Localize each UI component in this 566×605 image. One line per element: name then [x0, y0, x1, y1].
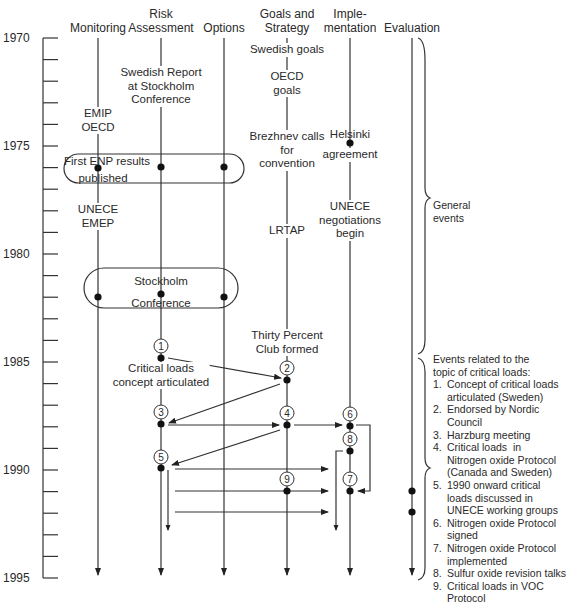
- legend-num: 6.: [433, 517, 447, 542]
- legend-text: Critical loads in Nitrogen oxide Protoco…: [447, 441, 556, 479]
- event-swedish-report: Swedish Report at Stockholm Conference: [120, 66, 201, 107]
- legend-item-7: 7.Nitrogen oxide Protocol implemented: [433, 542, 566, 567]
- year-1975: 1975: [3, 139, 30, 153]
- year-1995: 1995: [3, 571, 30, 585]
- header-goals-strategy: Goals and Strategy: [260, 7, 315, 35]
- event-lrtap: LRTAP: [269, 224, 305, 238]
- general-events-brace: [418, 38, 430, 354]
- legend-text: Harzburg meeting: [447, 429, 530, 442]
- legend-item-6: 6.Nitrogen oxide Protocol signed: [433, 517, 566, 542]
- legend-num: 1.: [433, 378, 447, 403]
- legend-text: 1990 onward critical loads discussed in …: [447, 479, 558, 517]
- event-first-enp-published: published: [78, 172, 127, 186]
- legend-item-2: 2.Endorsed by Nordic Council: [433, 403, 566, 428]
- arrow-8-down: [336, 451, 343, 530]
- header-options: Options: [203, 21, 244, 35]
- arrow-6-to-7: [356, 425, 370, 491]
- marker-3: 3: [154, 405, 169, 420]
- event-brezhnev: Brezhnev calls for convention: [250, 130, 325, 171]
- event-oecd-goals: OECD goals: [270, 70, 303, 97]
- event-dots: [94, 139, 415, 515]
- legend-item-9: 9.Critical loads in VOC Protocol: [433, 580, 566, 605]
- event-critical-loads: Critical loads concept articulated: [113, 362, 210, 389]
- year-ticks: [43, 38, 58, 578]
- legend-item-3: 3.Harzburg meeting: [433, 429, 566, 442]
- marker-8: 8: [343, 432, 358, 447]
- event-unece-negotiations: UNECE negotiations begin: [319, 200, 381, 241]
- marker-6: 6: [343, 407, 358, 422]
- legend-num: 5.: [433, 479, 447, 517]
- event-stockholm-conference-2: Conference: [131, 297, 190, 311]
- legend-num: 8.: [433, 567, 447, 580]
- event-swedish-goals: Swedish goals: [250, 43, 324, 57]
- year-1970: 1970: [3, 31, 30, 45]
- legend-item-4: 4.Critical loads in Nitrogen oxide Proto…: [433, 441, 566, 479]
- legend-num: 3.: [433, 429, 447, 442]
- header-evaluation: Evaluation: [384, 21, 440, 35]
- legend-item-1: 1.Concept of critical loads articulated …: [433, 378, 566, 403]
- legend-title: Events related to the topic of critical …: [433, 353, 566, 378]
- event-helsinki-agreement: agreement: [323, 148, 378, 162]
- legend-item-8: 8.Sulfur oxide revision talks: [433, 567, 566, 580]
- year-1980: 1980: [3, 247, 30, 261]
- marker-7: 7: [343, 472, 358, 487]
- event-unece-emep: UNECE EMEP: [78, 203, 118, 230]
- critical-loads-brace: [418, 358, 430, 580]
- legend-text: Sulfur oxide revision talks: [447, 567, 566, 580]
- legend-text: Concept of critical loads articulated (S…: [447, 378, 558, 403]
- legend-num: 4.: [433, 441, 447, 479]
- legend-item-5: 5.1990 onward critical loads discussed i…: [433, 479, 566, 517]
- legend-text: Critical loads in VOC Protocol: [447, 580, 544, 605]
- year-1985: 1985: [3, 355, 30, 369]
- event-stockholm-conference: Stockholm: [134, 275, 188, 289]
- legend-num: 7.: [433, 542, 447, 567]
- marker-1: 1: [154, 339, 169, 354]
- legend-text: Endorsed by Nordic Council: [447, 403, 539, 428]
- event-first-enp: First ENP results: [64, 155, 150, 169]
- marker-9: 9: [280, 472, 295, 487]
- event-thirty-percent-club: Thirty Percent Club formed: [251, 329, 323, 356]
- arrow-4-to-5: [172, 430, 280, 465]
- marker-2: 2: [280, 361, 295, 376]
- legend-text: Nitrogen oxide Protocol signed: [447, 517, 556, 542]
- header-implementation: Imple- mentation: [324, 7, 377, 35]
- critical-loads-legend: Events related to the topic of critical …: [433, 353, 566, 605]
- legend-num: 2.: [433, 403, 447, 428]
- marker-4: 4: [280, 406, 295, 421]
- legend-text: Nitrogen oxide Protocol implemented: [447, 542, 556, 567]
- legend-num: 9.: [433, 580, 447, 605]
- marker-5: 5: [154, 450, 169, 465]
- header-monitoring: Monitoring: [70, 21, 126, 35]
- general-events-label: General events: [433, 199, 470, 225]
- header-risk-assessment: Risk Assessment: [128, 7, 193, 35]
- event-emip-oecd: EMIP OECD: [81, 107, 114, 134]
- event-helsinki: Helsinki: [330, 128, 370, 142]
- year-1990: 1990: [3, 463, 30, 477]
